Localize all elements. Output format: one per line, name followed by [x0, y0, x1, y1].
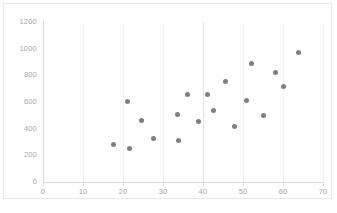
x-tick-label-0: 0 — [28, 188, 58, 196]
x-tick-70 — [323, 182, 324, 186]
x-axis-tick-labels: 010203040506070 — [4, 4, 331, 198]
x-tick-label-50: 50 — [228, 188, 258, 196]
x-tick-label-60: 60 — [268, 188, 298, 196]
x-tick-50 — [243, 182, 244, 186]
x-tick-label-40: 40 — [188, 188, 218, 196]
x-tick-0 — [43, 182, 44, 186]
x-tick-label-30: 30 — [148, 188, 178, 196]
chart-container: 020040060080010001200 010203040506070 — [3, 3, 332, 199]
x-tick-10 — [83, 182, 84, 186]
x-tick-60 — [283, 182, 284, 186]
x-tick-20 — [123, 182, 124, 186]
x-tick-40 — [203, 182, 204, 186]
x-tick-label-70: 70 — [308, 188, 337, 196]
x-tick-30 — [163, 182, 164, 186]
x-tick-label-20: 20 — [108, 188, 138, 196]
x-tick-label-10: 10 — [68, 188, 98, 196]
